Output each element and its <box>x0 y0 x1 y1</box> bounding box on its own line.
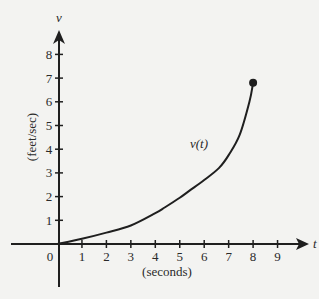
curve-label: v(t) <box>190 136 208 151</box>
y-tick-label: 5 <box>46 118 53 133</box>
x-axis-letter: t <box>313 236 317 251</box>
y-tick-label: 2 <box>46 189 53 204</box>
y-tick-label: 3 <box>46 165 53 180</box>
chart-canvas: 0123456789 12345678 t v (seconds) (feet/… <box>0 0 319 299</box>
y-tick-label: 8 <box>46 47 53 62</box>
x-tick-label: 2 <box>103 249 110 264</box>
x-tick-label: 6 <box>201 249 208 264</box>
y-axis <box>53 30 65 287</box>
x-axis-label: (seconds) <box>142 264 192 279</box>
y-tick-label: 6 <box>46 94 53 109</box>
velocity-curve <box>58 83 254 244</box>
y-ticks: 12345678 <box>46 47 63 228</box>
endpoint-dot <box>249 79 257 87</box>
x-axis <box>11 238 309 250</box>
y-tick-label: 4 <box>46 142 53 157</box>
x-tick-label: 0 <box>47 249 54 264</box>
y-axis-label: (feet/sec) <box>24 113 39 161</box>
x-tick-label: 5 <box>177 249 184 264</box>
x-tick-label: 7 <box>225 249 232 264</box>
x-tick-label: 8 <box>250 249 257 264</box>
y-tick-label: 7 <box>46 71 53 86</box>
x-tick-label: 1 <box>79 249 86 264</box>
x-tick-label: 9 <box>274 249 281 264</box>
x-tick-label: 3 <box>128 249 135 264</box>
x-tick-label: 4 <box>152 249 159 264</box>
velocity-chart: 0123456789 12345678 t v (seconds) (feet/… <box>0 0 319 299</box>
y-tick-label: 1 <box>46 213 53 228</box>
y-axis-letter: v <box>56 10 62 25</box>
